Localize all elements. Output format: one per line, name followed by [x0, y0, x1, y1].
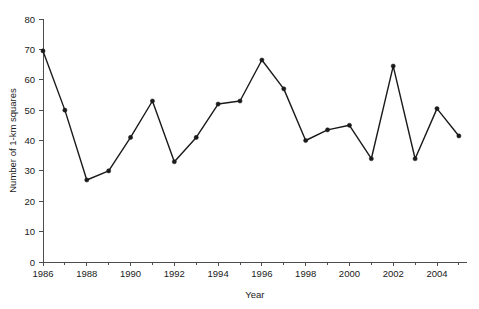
- x-tick-label: 1998: [295, 268, 316, 279]
- data-point: [325, 128, 329, 132]
- y-axis-title: Number of 1-km squares: [7, 88, 18, 193]
- x-tick-label: 2002: [383, 268, 404, 279]
- data-point-markers: [41, 49, 461, 182]
- data-point: [194, 135, 198, 139]
- line-chart: 01020304050607080 1986198819901992199419…: [0, 0, 479, 309]
- x-tick-label: 1996: [251, 268, 272, 279]
- x-tick-label: 2004: [426, 268, 447, 279]
- y-tick-label: 50: [24, 105, 35, 116]
- data-point: [216, 102, 220, 106]
- y-axis-ticks: 01020304050607080: [24, 14, 43, 268]
- x-axis-ticks: 1986198819901992199419961998200020022004: [32, 262, 458, 279]
- y-tick-label: 40: [24, 135, 35, 146]
- x-tick-label: 1990: [120, 268, 141, 279]
- x-tick-label: 1994: [208, 268, 229, 279]
- y-tick-label: 80: [24, 14, 35, 25]
- x-tick-label: 1988: [76, 268, 97, 279]
- x-tick-label: 2000: [339, 268, 360, 279]
- data-point: [282, 87, 286, 91]
- data-point: [63, 108, 67, 112]
- chart-container: 01020304050607080 1986198819901992199419…: [0, 0, 479, 309]
- data-point: [41, 49, 45, 53]
- y-tick-label: 60: [24, 74, 35, 85]
- data-point: [128, 135, 132, 139]
- data-point: [413, 157, 417, 161]
- x-tick-label: 1992: [164, 268, 185, 279]
- data-point: [238, 99, 242, 103]
- data-point: [107, 169, 111, 173]
- data-point: [85, 178, 89, 182]
- data-point: [172, 160, 176, 164]
- y-tick-label: 0: [30, 257, 35, 268]
- y-tick-label: 20: [24, 196, 35, 207]
- data-point: [260, 58, 264, 62]
- data-point: [150, 99, 154, 103]
- data-point: [391, 64, 395, 68]
- data-point: [304, 138, 308, 142]
- data-point: [369, 157, 373, 161]
- y-tick-label: 70: [24, 44, 35, 55]
- data-point: [347, 123, 351, 127]
- y-tick-label: 10: [24, 226, 35, 237]
- data-point: [457, 134, 461, 138]
- x-tick-label: 1986: [32, 268, 53, 279]
- data-series-line: [43, 51, 459, 180]
- y-tick-label: 30: [24, 165, 35, 176]
- x-axis-title: Year: [245, 289, 264, 300]
- data-point: [435, 107, 439, 111]
